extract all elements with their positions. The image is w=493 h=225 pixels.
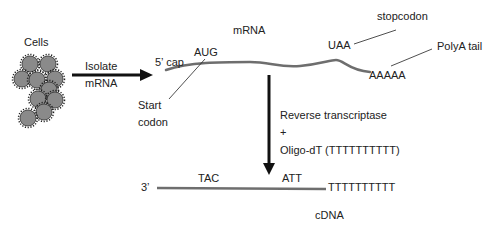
uaa-label: UAA	[328, 40, 351, 51]
mrna-title: mRNA	[233, 25, 265, 36]
isolate-label: Isolate	[85, 61, 117, 72]
polya-sequence-label: AAAAA	[369, 70, 406, 81]
cell-cluster-icon	[13, 55, 65, 128]
polya-pointer	[391, 49, 432, 66]
isolate-mrna-label: mRNA	[85, 78, 117, 89]
att-label: ATT	[282, 173, 302, 184]
stopcodon-label: stopcodon	[377, 11, 428, 22]
mrna-strand	[166, 60, 370, 72]
tac-label: TAC	[198, 173, 219, 184]
cell-icon	[13, 70, 32, 89]
cell-icon	[19, 109, 38, 128]
cell-icon	[21, 55, 40, 74]
polya-tail-label: PolyA tail	[437, 41, 482, 52]
reverse-transcription-arrow	[263, 75, 275, 175]
reverse-transcriptase-label: Reverse transcriptase	[280, 110, 387, 121]
five-prime-cap-label: 5’ cap	[155, 57, 184, 68]
start-codon-label-2: codon	[138, 117, 168, 128]
cells-label: Cells	[24, 37, 48, 48]
stop-codon-pointer	[354, 30, 396, 44]
t-tail-label: TTTTTTTTTT	[328, 182, 395, 193]
oligo-dt-label: Oligo-dT (TTTTTTTTTT)	[280, 145, 400, 156]
plus-label: +	[280, 127, 286, 138]
cdna-strand	[157, 188, 326, 189]
start-codon-label: Start	[138, 100, 161, 111]
three-prime-label: 3’	[141, 182, 150, 193]
aug-label: AUG	[194, 47, 218, 58]
cdna-label: cDNA	[315, 210, 344, 221]
